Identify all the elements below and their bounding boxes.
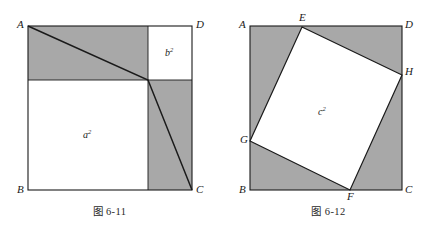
vertex-label-f: F bbox=[347, 191, 354, 202]
figure-6-12: A D B C E H F G c2 图 6-12 bbox=[219, 0, 438, 235]
vertex-label-h: H bbox=[405, 66, 413, 77]
vertex-label-b: B bbox=[17, 184, 24, 195]
figure-6-11-drawing bbox=[0, 0, 219, 200]
vertex-label-c: C bbox=[196, 184, 203, 195]
figure-page: A D B C a2 b2 图 6-11 A D B C E H F G c2 … bbox=[0, 0, 438, 235]
area-label-b-squared: b2 bbox=[165, 48, 173, 58]
vertex-label-a: A bbox=[17, 19, 24, 30]
vertex-label-g: G bbox=[240, 134, 248, 145]
figure-6-12-caption: 图 6-12 bbox=[219, 203, 438, 218]
vertex-label-c: C bbox=[405, 184, 412, 195]
vertex-label-d: D bbox=[196, 19, 204, 30]
vertex-label-d: D bbox=[405, 19, 413, 30]
figure-6-11: A D B C a2 b2 图 6-11 bbox=[0, 0, 219, 235]
vertex-label-a: A bbox=[239, 19, 246, 30]
figure-6-12-drawing bbox=[219, 0, 438, 200]
figure-6-11-caption: 图 6-11 bbox=[0, 203, 219, 218]
vertex-label-e: E bbox=[299, 12, 306, 23]
vertex-label-b: B bbox=[239, 184, 246, 195]
area-label-c-squared: c2 bbox=[318, 107, 326, 117]
area-label-a-squared: a2 bbox=[83, 130, 91, 140]
